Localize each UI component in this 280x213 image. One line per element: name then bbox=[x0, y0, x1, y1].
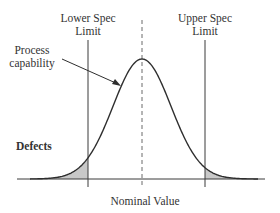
process-capability-arrow bbox=[62, 59, 118, 84]
process-capability-label: Process capability bbox=[4, 44, 60, 70]
process-capability-diagram bbox=[0, 0, 280, 213]
process-label-line2: capability bbox=[4, 57, 60, 70]
upper-spec-label-line1: Upper Spec bbox=[175, 12, 235, 25]
lower-spec-label-line2: Limit bbox=[58, 25, 118, 38]
lower-spec-limit-label: Lower Spec Limit bbox=[58, 12, 118, 38]
normal-distribution-curve bbox=[30, 59, 258, 179]
nominal-value-label: Nominal Value bbox=[108, 195, 182, 208]
arrow-head-icon bbox=[112, 79, 121, 86]
lower-spec-label-line1: Lower Spec bbox=[58, 12, 118, 25]
upper-spec-label-line2: Limit bbox=[175, 25, 235, 38]
upper-spec-limit-label: Upper Spec Limit bbox=[175, 12, 235, 38]
lower-defect-area bbox=[30, 158, 88, 179]
defects-label: Defects bbox=[16, 140, 52, 153]
process-label-line1: Process bbox=[4, 44, 60, 57]
